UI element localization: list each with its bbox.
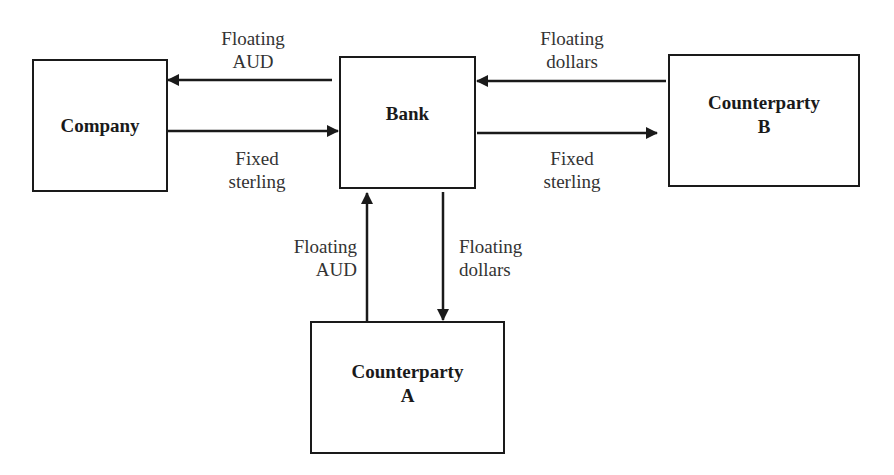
counterparty-b-label: Counterparty B	[708, 91, 820, 139]
company-label: Company	[60, 114, 139, 138]
flow-label-bank-to-company: Floating AUD	[208, 27, 298, 73]
flow-label-cpb-to-bank: Floating dollars	[527, 27, 617, 73]
flow-label-cpa-to-bank: Floating AUD	[267, 235, 357, 281]
counterparty-b-node: Counterparty B	[668, 54, 860, 187]
flow-label-bank-to-cpb: Fixed sterling	[527, 147, 617, 193]
company-node: Company	[32, 59, 168, 192]
flow-label-company-to-bank: Fixed sterling	[212, 147, 302, 193]
bank-label: Bank	[386, 102, 429, 126]
bank-node: Bank	[339, 56, 476, 189]
flow-label-bank-to-cpa: Floating dollars	[459, 235, 559, 281]
counterparty-a-label: Counterparty A	[352, 360, 464, 408]
counterparty-a-node: Counterparty A	[310, 321, 505, 454]
